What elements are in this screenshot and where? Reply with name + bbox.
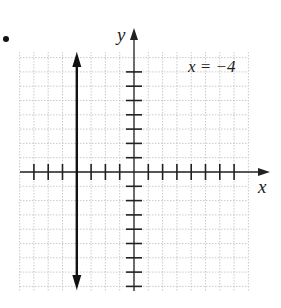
y-axis-label: y [117, 24, 125, 46]
x-axis-label: x [258, 176, 266, 198]
equation-label: x = −4 [188, 57, 236, 77]
graph-line-x-equals-neg4 [72, 52, 81, 290]
coordinate-plane [0, 0, 281, 308]
